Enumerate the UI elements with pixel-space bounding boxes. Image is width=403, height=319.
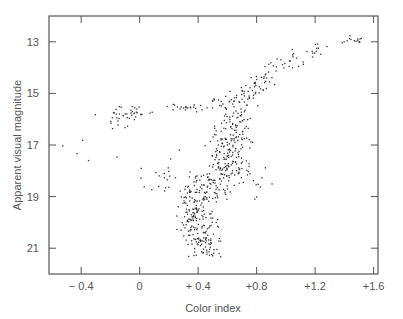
- star-point: [209, 255, 210, 256]
- star-point: [219, 152, 220, 153]
- star-point: [237, 125, 238, 126]
- star-point: [194, 252, 195, 253]
- star-point: [194, 185, 195, 186]
- star-point: [255, 93, 256, 94]
- star-point: [169, 176, 170, 177]
- star-point: [213, 234, 214, 235]
- color-magnitude-diagram: − 0.40+ 0.4+0.8+1.2+1.6 1315171921 Color…: [0, 0, 403, 319]
- star-point: [196, 229, 197, 230]
- star-point: [221, 146, 222, 147]
- star-point: [130, 112, 131, 113]
- star-point: [187, 220, 188, 221]
- star-point: [266, 77, 267, 78]
- star-point: [236, 163, 237, 164]
- star-point: [195, 200, 196, 201]
- star-point: [316, 51, 317, 52]
- star-point: [244, 95, 245, 96]
- star-point: [293, 53, 294, 54]
- star-point: [188, 221, 189, 222]
- star-point: [249, 139, 250, 140]
- star-point: [218, 163, 219, 164]
- star-point: [315, 44, 316, 45]
- star-point: [182, 222, 183, 223]
- star-point: [203, 249, 204, 250]
- star-point: [121, 107, 122, 108]
- star-point: [194, 199, 195, 200]
- star-point: [226, 159, 227, 160]
- star-point: [200, 105, 201, 106]
- star-point: [144, 186, 145, 187]
- star-point: [212, 218, 213, 219]
- star-point: [181, 106, 182, 107]
- star-point: [119, 106, 120, 107]
- star-point: [202, 216, 203, 217]
- star-point: [271, 183, 272, 184]
- star-point: [241, 99, 242, 100]
- star-point: [191, 214, 192, 215]
- star-point: [124, 127, 125, 128]
- star-point: [220, 184, 221, 185]
- star-point: [216, 201, 217, 202]
- star-point: [206, 192, 207, 193]
- star-point: [237, 140, 238, 141]
- y-axis-ticks: 1315171921: [27, 36, 378, 254]
- star-point: [206, 254, 207, 255]
- star-point: [187, 192, 188, 193]
- star-point: [205, 193, 206, 194]
- star-point: [236, 157, 237, 158]
- star-point: [189, 176, 190, 177]
- star-point: [205, 145, 206, 146]
- star-point: [190, 227, 191, 228]
- star-point: [202, 253, 203, 254]
- star-point: [189, 200, 190, 201]
- star-point: [227, 144, 228, 145]
- star-point: [116, 114, 117, 115]
- star-point: [165, 187, 166, 188]
- star-point: [243, 93, 244, 94]
- star-point: [207, 228, 208, 229]
- star-point: [195, 108, 196, 109]
- star-point: [212, 107, 213, 108]
- star-point: [181, 196, 182, 197]
- star-point: [119, 118, 120, 119]
- star-point: [187, 214, 188, 215]
- star-point: [255, 83, 256, 84]
- star-point: [228, 180, 229, 181]
- star-point: [214, 159, 215, 160]
- star-point: [219, 105, 220, 106]
- star-point: [134, 113, 135, 114]
- star-point: [117, 124, 118, 125]
- star-point: [216, 249, 217, 250]
- star-point: [193, 238, 194, 239]
- star-point: [209, 165, 210, 166]
- star-point: [214, 126, 215, 127]
- star-point: [233, 140, 234, 141]
- star-point: [217, 150, 218, 151]
- star-point: [242, 91, 243, 92]
- star-point: [246, 105, 247, 106]
- star-point: [253, 180, 254, 181]
- star-point: [117, 120, 118, 121]
- star-point: [228, 163, 229, 164]
- star-point: [197, 228, 198, 229]
- star-point: [223, 189, 224, 190]
- star-point: [209, 226, 210, 227]
- star-point: [260, 88, 261, 89]
- star-point: [215, 189, 216, 190]
- star-point: [201, 226, 202, 227]
- star-point: [229, 177, 230, 178]
- star-point: [229, 121, 230, 122]
- star-point: [197, 200, 198, 201]
- star-point: [194, 213, 195, 214]
- star-point: [235, 125, 236, 126]
- star-point: [197, 233, 198, 234]
- star-point: [227, 188, 228, 189]
- star-point: [215, 193, 216, 194]
- star-point: [231, 173, 232, 174]
- star-point: [347, 40, 348, 41]
- star-point: [223, 128, 224, 129]
- star-point: [196, 189, 197, 190]
- star-point: [219, 179, 220, 180]
- star-point: [222, 168, 223, 169]
- star-point: [241, 163, 242, 164]
